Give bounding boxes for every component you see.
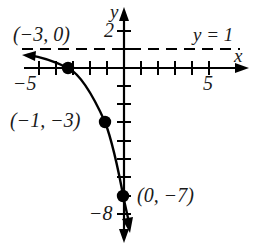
data-point-marker [62, 62, 74, 74]
curve-path [28, 55, 128, 218]
y-axis-arrowhead-top-icon [119, 7, 129, 21]
x-tick-label-minus5: −5 [13, 73, 37, 93]
graph-figure: (−3, 0) (−1, −3) (0, −7) y = 1 x y 2 −8 … [0, 0, 256, 249]
curve-arrowhead-left-icon [22, 51, 36, 61]
y-axis-arrowhead-bottom-icon [119, 229, 129, 243]
data-point-marker [117, 190, 129, 202]
y-tick-label-minus8: −8 [89, 203, 113, 223]
y-tick-label-2: 2 [104, 20, 114, 40]
point-label-0-minus7: (0, −7) [137, 185, 194, 205]
x-tick-label-5: 5 [203, 73, 213, 93]
asymptote-label: y = 1 [193, 25, 233, 44]
data-point-marker [99, 116, 111, 128]
point-label-minus3-0: (−3, 0) [13, 24, 70, 44]
point-label-minus1-minus3: (−1, −3) [10, 110, 80, 130]
x-axis-label: x [234, 46, 242, 65]
